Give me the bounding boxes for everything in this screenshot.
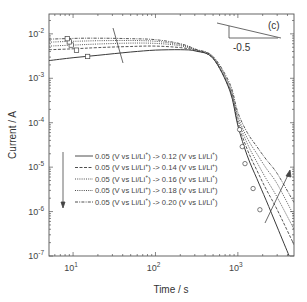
legend-label-4: 0.05 (V vs Li/Li+) -> 0.20 (V vs Li/Li+)	[95, 196, 218, 207]
y-axis-title: Current / A	[7, 111, 18, 159]
y-tick-label-4: 10-6	[28, 205, 44, 217]
legend-arrow	[61, 152, 65, 208]
x-axis-title: Time / s	[153, 284, 188, 295]
chart: 10-210-310-410-510-610-7 101102103 Time …	[0, 0, 307, 302]
series-line-1	[49, 46, 294, 245]
panel-label: (c)	[268, 20, 280, 31]
series-marker-0	[85, 54, 89, 58]
y-tick-label-2: 10-4	[28, 116, 44, 128]
tail-marker-3	[251, 186, 255, 190]
legend: 0.05 (V vs Li/Li+) -> 0.12 (V vs Li/Li+)…	[75, 150, 218, 207]
series-marker-4	[65, 36, 69, 40]
series-layer	[49, 38, 294, 256]
y-tick-label-0: 10-2	[28, 27, 44, 39]
series-marker-1	[74, 48, 78, 52]
trend-arrow-tail	[265, 170, 291, 223]
slope-label: -0.5	[233, 42, 251, 53]
plot-frame	[49, 14, 294, 256]
y-tick-labels: 10-210-310-410-510-610-7	[28, 27, 44, 261]
tick-layer	[49, 14, 294, 256]
tail-marker-4	[258, 208, 262, 212]
y-tick-label-3: 10-5	[28, 160, 44, 172]
trend-line-plateau	[113, 28, 123, 63]
legend-label-2: 0.05 (V vs Li/Li+) -> 0.16 (V vs Li/Li+)	[95, 173, 218, 184]
x-tick-label-1: 102	[147, 261, 161, 273]
tail-marker-1	[240, 144, 244, 148]
legend-label-1: 0.05 (V vs Li/Li+) -> 0.14 (V vs Li/Li+)	[95, 162, 218, 173]
y-tick-label-5: 10-7	[28, 249, 44, 261]
legend-label-0: 0.05 (V vs Li/Li+) -> 0.12 (V vs Li/Li+)	[95, 150, 218, 161]
tail-marker-0	[237, 127, 241, 131]
x-tick-label-0: 101	[64, 261, 78, 273]
y-tick-label-1: 10-3	[28, 71, 44, 83]
x-tick-label-2: 103	[229, 261, 243, 273]
tail-marker-2	[243, 161, 247, 165]
x-tick-labels: 101102103	[64, 261, 243, 273]
legend-label-3: 0.05 (V vs Li/Li+) -> 0.18 (V vs Li/Li+)	[95, 185, 218, 196]
